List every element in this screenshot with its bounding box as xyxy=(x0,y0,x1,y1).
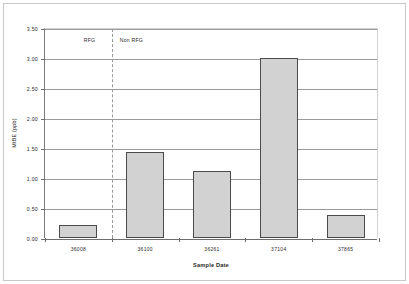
gridline xyxy=(45,89,377,90)
rfg-divider-line xyxy=(112,29,113,238)
x-tick-mark xyxy=(245,238,246,242)
y-tick-mark xyxy=(41,119,45,120)
y-tick-mark xyxy=(41,89,45,90)
bar xyxy=(260,58,298,238)
x-tick-mark xyxy=(45,238,46,242)
gridline xyxy=(45,119,377,120)
bar xyxy=(193,171,231,238)
y-tick-label: 1.00 xyxy=(27,176,38,182)
y-tick-label: 0.50 xyxy=(27,206,38,212)
x-tick-mark xyxy=(312,238,313,242)
y-tick-label: 3.50 xyxy=(27,26,38,32)
x-tick-mark xyxy=(179,238,180,242)
y-tick-mark xyxy=(41,149,45,150)
x-tick-label: 36261 xyxy=(204,246,219,252)
y-tick-mark xyxy=(41,179,45,180)
gridline xyxy=(45,149,377,150)
x-axis-title: Sample Date xyxy=(44,262,378,268)
bar xyxy=(59,225,97,238)
x-tick-label: 36008 xyxy=(71,246,86,252)
y-tick-mark xyxy=(41,59,45,60)
gridline xyxy=(45,29,377,30)
x-tick-label: 37865 xyxy=(338,246,353,252)
y-axis-title: MtBE (ppb) xyxy=(11,118,17,147)
bar xyxy=(126,152,164,238)
y-tick-label: 2.50 xyxy=(27,86,38,92)
y-tick-mark xyxy=(41,209,45,210)
plot-area: 0.000.501.001.502.002.503.003.50 3600836… xyxy=(44,28,378,238)
gridline xyxy=(45,239,377,240)
y-tick-label: 0.00 xyxy=(27,236,38,242)
y-tick-label: 3.00 xyxy=(27,56,38,62)
y-tick-label: 1.50 xyxy=(27,146,38,152)
x-tick-label: 37104 xyxy=(271,246,286,252)
rfg-region-label: RFG xyxy=(84,37,96,43)
x-tick-mark xyxy=(112,238,113,242)
bar xyxy=(327,215,365,238)
y-tick-mark xyxy=(41,29,45,30)
y-tick-label: 2.00 xyxy=(27,116,38,122)
non-rfg-region-label: Non RFG xyxy=(120,37,143,43)
x-tick-mark xyxy=(379,238,380,242)
gridline xyxy=(45,59,377,60)
chart-figure: MtBE (ppb) 0.000.501.001.502.002.503.003… xyxy=(0,0,409,284)
x-tick-label: 36100 xyxy=(137,246,152,252)
